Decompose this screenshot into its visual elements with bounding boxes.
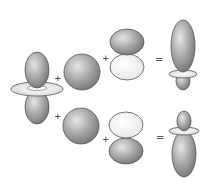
equals-operator: = [155,54,163,65]
hybrid-large-lobe [172,131,196,177]
s-orbital-sphere [63,108,99,144]
hybrid-large-lobe [171,20,195,72]
p-lobe-dark [109,138,143,164]
hybrid-orbital-down [169,111,199,177]
plus-operator: + [102,53,110,63]
hybrid-orbital-up [169,20,197,90]
p-lobe-light [110,54,144,80]
p-orbital-dark-up [110,29,144,80]
s-orbital-sphere [64,54,100,90]
p-lobe-dark [110,29,144,55]
plus-operator: + [102,134,110,144]
equals-operator: = [156,132,164,143]
plus-operator: + [54,111,62,121]
p-lobe-light [109,112,143,138]
dz2-top-lobe [25,52,49,88]
hybrid-small-lobe [177,111,191,131]
plus-operator: + [54,73,62,83]
orbital-diagram: + + = + + = [0,0,219,191]
p-orbital-dark-down [109,112,143,164]
